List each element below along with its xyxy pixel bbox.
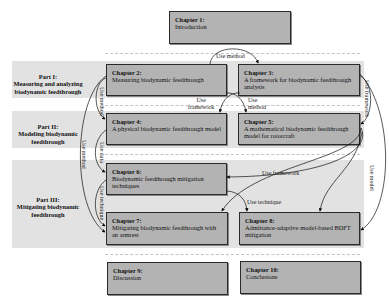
vlabel-use-method: Use method — [99, 87, 105, 116]
vlabel-use-technique: Use technique — [99, 186, 105, 220]
edge-label-use-technique: Use technique — [247, 199, 281, 206]
edge-label-use-framework: Use framework — [188, 97, 214, 110]
label-use: Use — [196, 97, 205, 103]
edge-label-use-method: Use method — [248, 97, 266, 110]
vlabel-use-framework: Use framework — [364, 80, 370, 117]
label-method: method — [248, 104, 266, 110]
dependency-arrows — [0, 0, 389, 307]
vlabel-use-method-long: Use method — [81, 140, 87, 169]
vlabel-use-data: Use data — [99, 142, 105, 163]
vlabel-use-model: Use model — [369, 165, 375, 191]
edge-label-use-framework: Use framework — [262, 170, 299, 177]
edge-label-use-method: Use method — [216, 53, 245, 60]
label-framework: framework — [188, 104, 214, 110]
label-use: Use — [248, 97, 257, 103]
